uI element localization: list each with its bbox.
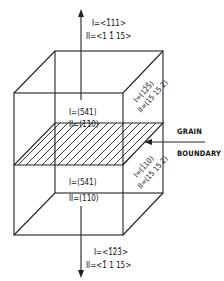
top-axis-label-2: II=<1 1̄ 15> bbox=[86, 31, 131, 41]
bicrystal-diagram: I=<1̄11> II=<1 1̄ 15> I=(541) II=(110) I… bbox=[0, 0, 224, 281]
grain-boundary-arrow bbox=[144, 139, 205, 145]
upper-front-face-label-2: II=(110) bbox=[69, 120, 99, 129]
grain-boundary-label-1: GRAIN bbox=[177, 127, 202, 136]
lower-front-face-label-2: II=(110) bbox=[69, 194, 99, 203]
grain-boundary-label-2: BOUNDARY bbox=[177, 149, 221, 158]
top-axis-label-1: I=<1̄11> bbox=[92, 18, 126, 28]
top-axis-arrow bbox=[78, 9, 84, 100]
bottom-axis-label-1: I=<1̄2̄3̄> bbox=[94, 247, 128, 257]
lower-front-face-label-1: I=(541) bbox=[69, 178, 97, 187]
upper-front-face-label-1: I=(541) bbox=[69, 108, 97, 117]
bottom-axis-arrow bbox=[78, 206, 84, 278]
bottom-axis-label-2: II=<1̄ 1 15> bbox=[86, 260, 131, 270]
